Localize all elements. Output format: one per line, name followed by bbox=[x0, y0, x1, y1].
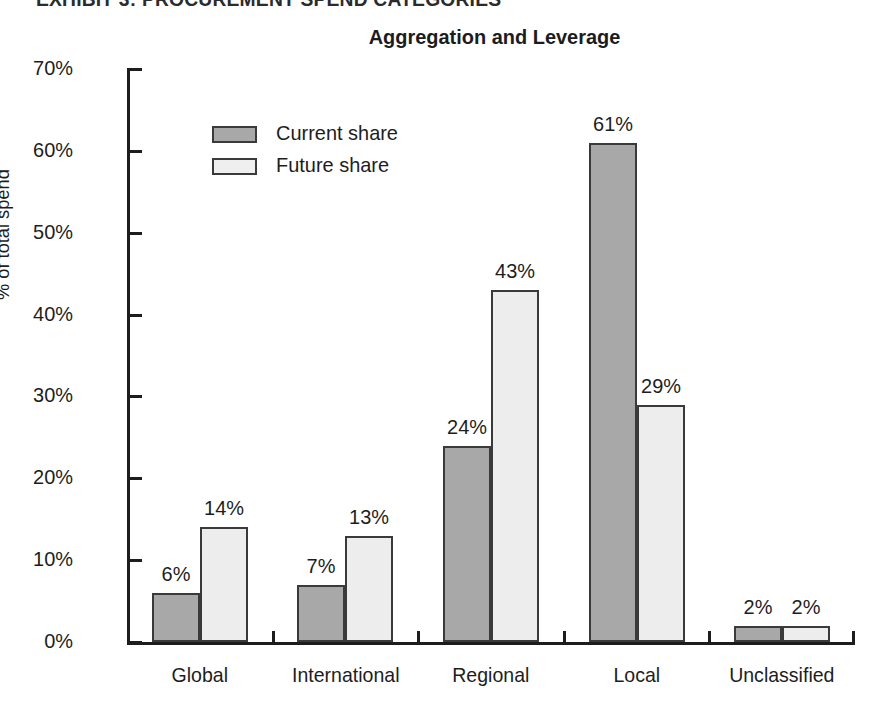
legend-swatch-current-icon bbox=[212, 126, 257, 143]
plot-area: 0%10%20%30%40%50%60%70% 6%14%7%13%24%43%… bbox=[127, 69, 855, 645]
bar-international-current[interactable] bbox=[297, 585, 345, 642]
y-axis-tick-label: 30% bbox=[0, 383, 73, 407]
bar-value-label: 13% bbox=[331, 505, 407, 529]
legend-swatch-future-icon bbox=[212, 158, 257, 175]
bar-regional-future[interactable] bbox=[491, 290, 539, 642]
x-axis-tick bbox=[127, 631, 130, 643]
y-axis-tick-label: 70% bbox=[0, 56, 73, 80]
x-axis-tick bbox=[417, 631, 420, 643]
bar-local-future[interactable] bbox=[637, 405, 685, 642]
category-label-local: Local bbox=[569, 663, 704, 687]
y-axis-tick bbox=[127, 314, 142, 317]
bar-value-label: 61% bbox=[575, 112, 651, 136]
bar-value-label: 43% bbox=[477, 259, 553, 283]
y-axis-tick-label: 10% bbox=[0, 547, 73, 571]
bar-value-label: 29% bbox=[623, 374, 699, 398]
x-axis-tick bbox=[852, 631, 855, 643]
y-axis-tick-label: 50% bbox=[0, 220, 73, 244]
y-axis-tick bbox=[127, 68, 142, 71]
bar-global-future[interactable] bbox=[200, 527, 248, 642]
x-axis-tick bbox=[563, 631, 566, 643]
y-axis-tick-label: 60% bbox=[0, 138, 73, 162]
bar-unclassified-current[interactable] bbox=[734, 626, 782, 642]
chart-page: EXHIBIT 3: PROCUREMENT SPEND CATEGORIES … bbox=[0, 0, 894, 710]
y-axis-tick bbox=[127, 150, 142, 153]
bar-value-label: 14% bbox=[186, 496, 262, 520]
category-label-international: International bbox=[278, 663, 413, 687]
chart-title: Aggregation and Leverage bbox=[22, 25, 871, 49]
category-label-global: Global bbox=[132, 663, 267, 687]
bar-value-label: 2% bbox=[768, 595, 844, 619]
category-label-regional: Regional bbox=[423, 663, 558, 687]
category-label-unclassified: Unclassified bbox=[714, 663, 849, 687]
legend-label-current: Current share bbox=[276, 121, 398, 145]
y-axis-tick bbox=[127, 477, 142, 480]
bar-regional-current[interactable] bbox=[443, 446, 491, 642]
x-axis-tick bbox=[708, 631, 711, 643]
x-axis-line bbox=[127, 642, 855, 645]
bar-international-future[interactable] bbox=[345, 536, 393, 642]
x-axis-tick bbox=[272, 631, 275, 643]
y-axis-tick-label: 20% bbox=[0, 465, 73, 489]
y-axis-tick-label: 0% bbox=[0, 629, 73, 653]
bar-unclassified-future[interactable] bbox=[782, 626, 830, 642]
bar-global-current[interactable] bbox=[152, 593, 200, 642]
y-axis-tick bbox=[127, 395, 142, 398]
legend-label-future: Future share bbox=[276, 153, 389, 177]
y-axis-tick-label: 40% bbox=[0, 302, 73, 326]
exhibit-header: EXHIBIT 3: PROCUREMENT SPEND CATEGORIES bbox=[36, 0, 501, 11]
y-axis-tick bbox=[127, 232, 142, 235]
